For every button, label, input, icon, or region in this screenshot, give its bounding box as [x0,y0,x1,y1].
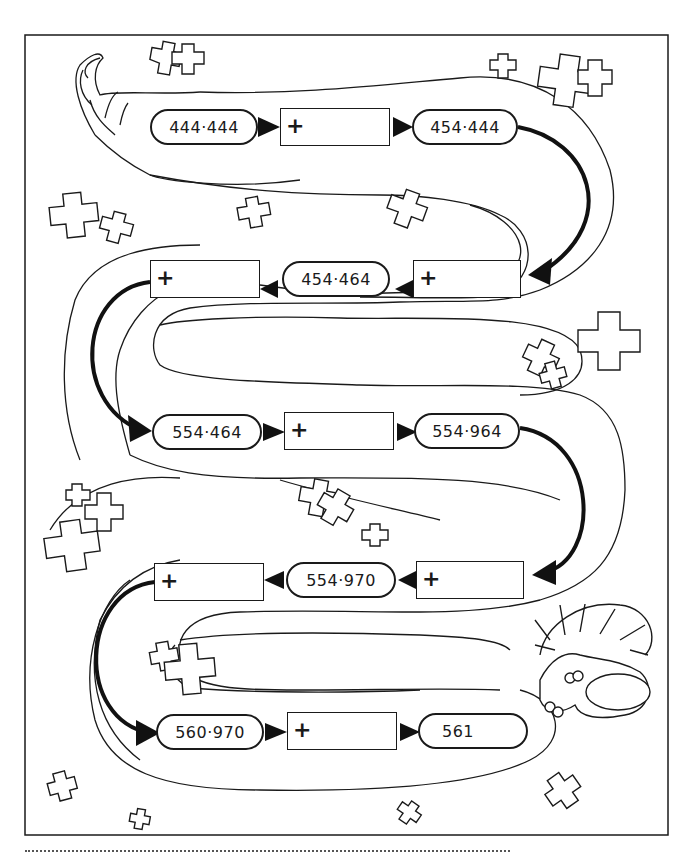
plus-sign: + [422,566,440,592]
plus-sign: + [156,265,174,291]
plus-sign: + [293,717,311,743]
answer-box-2[interactable]: + [413,260,521,298]
plus-sign: + [286,113,304,139]
number-pill-r5-start: 560·970 [156,714,264,750]
answer-box-3[interactable]: + [150,260,260,298]
serpent-head [535,604,652,718]
plus-sign: + [290,417,308,443]
number-pill-r1-start: 444·444 [150,109,258,145]
number-pill-r3-end: 554·964 [414,413,520,449]
number-pill-r5-end: 561 [418,713,528,749]
plus-sign: + [419,265,437,291]
answer-line[interactable] [25,848,510,852]
answer-box-7[interactable]: + [287,712,397,750]
answer-box-1[interactable]: + [280,108,390,146]
answer-box-4[interactable]: + [284,412,394,450]
number-pill-r2-mid: 454·464 [282,261,390,297]
plus-sign: + [160,568,178,594]
number-pill-r3-start: 554·464 [152,414,262,450]
answer-box-6[interactable]: + [154,563,264,601]
number-pill-r1-end: 454·444 [412,109,518,145]
number-pill-r4-mid: 554·970 [286,562,396,598]
answer-box-5[interactable]: + [416,561,524,599]
